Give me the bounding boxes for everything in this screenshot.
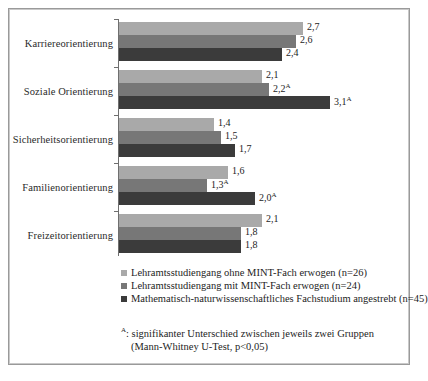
legend-swatch [121, 296, 127, 302]
significance-marker: A [272, 191, 277, 199]
chart-footnote: A: signifikanter Unterschied zwischen je… [121, 324, 411, 353]
legend-item: Lehramtsstudiengang ohne MINT-Fach erwog… [9, 267, 409, 278]
bar-group-bars: 2,12,2A3,1A [119, 70, 409, 112]
bar [119, 70, 262, 83]
bar-value-label: 1,7 [239, 143, 252, 154]
significance-marker: A [224, 178, 229, 186]
bar [119, 227, 241, 240]
bar-value-label: 1,8 [245, 226, 258, 237]
bar-row: 1,8 [119, 227, 409, 240]
legend-label: Lehramtsstudiengang mit MINT-Fach erwoge… [131, 280, 360, 291]
legend-item: Mathematisch-naturwissenschaftliches Fac… [9, 293, 409, 304]
bar-group-bars: 1,41,51,7 [119, 118, 409, 160]
bar-row: 2,6 [119, 35, 409, 48]
bar-group: Karriereorientierung2,72,62,4 [9, 19, 409, 67]
legend-label: Lehramtsstudiengang ohne MINT-Fach erwog… [131, 267, 367, 278]
bar-row: 1,5 [119, 131, 409, 144]
bar-group-bars: 1,61,3A2,0A [119, 166, 409, 208]
bar-value-label: 2,7 [307, 21, 320, 32]
figure-frame: Karriereorientierung2,72,62,4Soziale Ori… [8, 8, 410, 365]
bar-row: 3,1A [119, 96, 409, 109]
bar-group: Freizeitorientierung2,11,81,8 [9, 211, 409, 259]
chart-legend: Lehramtsstudiengang ohne MINT-Fach erwog… [9, 267, 409, 306]
footnote-text-1: : signifikanter Unterschied zwischen jew… [126, 328, 374, 339]
bar-group: Sicherheitsorientierung1,41,51,7 [9, 115, 409, 163]
category-label: Freizeitorientierung [9, 211, 113, 259]
category-label: Soziale Orientierung [9, 67, 113, 115]
bar-value-label: 1,3A [211, 178, 229, 190]
category-label: Sicherheitsorientierung [9, 115, 113, 163]
category-label: Familienorientierung [9, 163, 113, 211]
bar-group-bars: 2,11,81,8 [119, 214, 409, 256]
bar-row: 2,7 [119, 22, 409, 35]
bar-row: 1,4 [119, 118, 409, 131]
bar-value-label: 2,6 [300, 34, 313, 45]
bar [119, 118, 214, 131]
bar-row: 2,1 [119, 70, 409, 83]
category-label: Karriereorientierung [9, 19, 113, 67]
bar-value-label: 1,5 [225, 130, 238, 141]
legend-label: Mathematisch-naturwissenschaftliches Fac… [131, 293, 428, 304]
bar-row: 1,8 [119, 240, 409, 253]
bar-value-label: 2,1 [266, 69, 279, 80]
footnote-line-1: A: signifikanter Unterschied zwischen je… [121, 324, 411, 340]
significance-marker: A [347, 95, 352, 103]
bar-group: Familienorientierung1,61,3A2,0A [9, 163, 409, 211]
bar-row: 2,0A [119, 192, 409, 205]
bar-row: 1,6 [119, 166, 409, 179]
significance-marker: A [286, 82, 291, 90]
legend-item: Lehramtsstudiengang mit MINT-Fach erwoge… [9, 280, 409, 291]
bar [119, 179, 207, 192]
bar-chart-plot-area: Karriereorientierung2,72,62,4Soziale Ori… [9, 13, 409, 263]
bar-value-label: 2,2A [273, 82, 291, 94]
bar-value-label: 2,4 [286, 47, 299, 58]
bar [119, 214, 262, 227]
bar-row: 1,7 [119, 144, 409, 157]
bar-row: 2,4 [119, 48, 409, 61]
bar-row: 2,1 [119, 214, 409, 227]
legend-swatch [121, 283, 127, 289]
bar [119, 96, 330, 109]
bar [119, 240, 241, 253]
bar-value-label: 1,6 [232, 165, 245, 176]
bar [119, 22, 303, 35]
bar-value-label: 1,4 [218, 117, 231, 128]
legend-swatch [121, 270, 127, 276]
bar [119, 48, 282, 61]
bar [119, 35, 296, 48]
bar [119, 192, 255, 205]
bar-group-bars: 2,72,62,4 [119, 22, 409, 64]
bar-value-label: 3,1A [334, 95, 352, 107]
bar-value-label: 1,8 [245, 239, 258, 250]
footnote-line-2: (Mann-Whitney U-Test, p<0,05) [121, 340, 411, 353]
bar-value-label: 2,1 [266, 213, 279, 224]
bar-value-label: 2,0A [259, 191, 277, 203]
bar [119, 144, 235, 157]
bar [119, 131, 221, 144]
bar-row: 2,2A [119, 83, 409, 96]
bar [119, 83, 269, 96]
bar-group: Soziale Orientierung2,12,2A3,1A [9, 67, 409, 115]
